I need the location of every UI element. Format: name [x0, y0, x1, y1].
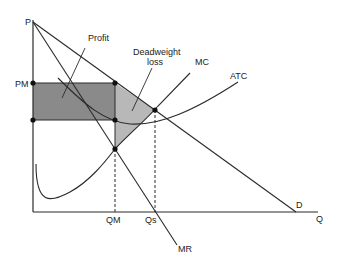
atc-label: ATC: [230, 71, 248, 81]
dwl-label-line2: loss: [147, 57, 164, 67]
profit-region: [33, 83, 115, 120]
qm-label: QM: [106, 215, 121, 225]
demand-label: D: [296, 200, 303, 210]
mr-label: MR: [178, 244, 192, 254]
monopoly-diagram: P Q PM QM Qs D MR MC ATC Profit Deadweig…: [0, 0, 340, 268]
pm-label: PM: [15, 79, 29, 89]
point-mc-demand: [152, 107, 157, 112]
x-axis-label: Q: [316, 214, 323, 224]
y-axis-label: P: [25, 17, 31, 27]
point-mr-mc: [112, 146, 117, 151]
point-pm-axis: [30, 80, 35, 85]
profit-label: Profit: [88, 33, 110, 43]
qs-label: Qs: [145, 215, 157, 225]
point-atc-axis: [30, 117, 35, 122]
mc-label: MC: [195, 57, 209, 67]
point-atc-qm: [112, 117, 117, 122]
dwl-label-line1: Deadweight: [133, 47, 181, 57]
point-pm-demand: [112, 80, 117, 85]
